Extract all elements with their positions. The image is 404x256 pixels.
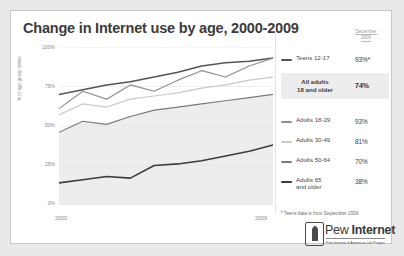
legend-value-adults-30-49: 81% (355, 138, 387, 145)
footnote: * Teens data is from September 2009 (281, 211, 401, 216)
all-adults-band (59, 94, 273, 205)
logo-name-light: Pew (325, 223, 352, 237)
y-tick-75: 75% (29, 83, 55, 89)
logo-mark-icon (305, 222, 324, 246)
legend-label-adults-65-line2: and older (296, 183, 321, 190)
legend-row-adults-50-64[interactable]: Adults 50-64 70% (279, 155, 391, 171)
logo-tagline: Pew Internet & American Life Project (326, 238, 385, 245)
legend-row-adults-18-29[interactable]: Adults 18-29 93% (279, 115, 391, 131)
logo-name-bold: Internet (352, 223, 395, 237)
legend-swatch-adults-65-older (281, 181, 292, 183)
logo-wordmark: Pew Internet (325, 223, 395, 237)
chart-svg (59, 47, 273, 205)
legend-row-adults-65-older[interactable]: Adults 65and older 38% (279, 175, 391, 191)
y-tick-100: 100% (29, 44, 55, 50)
chart-card: Change in Internet use by age, 2000-2009… (10, 10, 392, 244)
y-tick-0: 0% (29, 200, 55, 206)
legend-label-all-adults-line1: All adults (301, 78, 328, 85)
legend-swatch-teens (281, 59, 292, 61)
legend-divider (275, 25, 276, 213)
legend-label-teens: Teens 12-17 (296, 54, 350, 61)
legend-value-adults-65-older: 38% (355, 178, 387, 185)
pew-internet-logo: Pew Internet Pew Internet & American Lif… (305, 221, 397, 247)
legend-label-adults-18-29: Adults 18-29 (296, 116, 350, 123)
legend-label-all-adults-line2: 18 and older (297, 86, 333, 93)
legend-swatch-adults-30-49 (281, 141, 292, 143)
y-tick-50: 50% (29, 122, 55, 128)
legend-row-all-adults[interactable]: All adults 18 and older 74% (281, 73, 389, 99)
legend: December 2009 Teens 12-17 93%* All adult… (279, 29, 391, 205)
legend-value-adults-50-64: 70% (355, 158, 387, 165)
legend-label-adults-50-64: Adults 50-64 (296, 156, 350, 163)
plot-area: % of age group online 100% 75% 50% 25% 0… (21, 43, 275, 231)
legend-row-teens[interactable]: Teens 12-17 93%* (279, 53, 391, 69)
page-title: Change in Internet use by age, 2000-2009 (23, 20, 299, 36)
line-chart (59, 47, 273, 205)
x-tick-2009: 2009 (255, 215, 267, 221)
legend-date-header: December 2009 (345, 29, 387, 42)
legend-swatch-adults-18-29 (281, 121, 292, 123)
x-tick-2000: 2000 (55, 215, 67, 221)
series-line-0 (59, 58, 273, 94)
legend-value-all-adults: 74% (355, 82, 387, 89)
legend-date-year: 2009 (361, 35, 371, 41)
legend-label-adults-30-49: Adults 30-49 (296, 136, 350, 143)
legend-label-adults-65-line1: Adults 65 (296, 176, 321, 183)
legend-label-adults-65-older: Adults 65and older (296, 176, 350, 190)
logo-figure-body-icon (312, 227, 318, 241)
y-tick-25: 25% (29, 161, 55, 167)
legend-value-adults-18-29: 93% (355, 118, 387, 125)
legend-row-adults-30-49[interactable]: Adults 30-49 81% (279, 135, 391, 151)
y-axis-label: % of age group online (17, 56, 22, 101)
legend-value-teens: 93%* (355, 56, 387, 63)
legend-swatch-adults-50-64 (281, 161, 292, 163)
legend-label-all-adults: All adults 18 and older (287, 78, 343, 93)
